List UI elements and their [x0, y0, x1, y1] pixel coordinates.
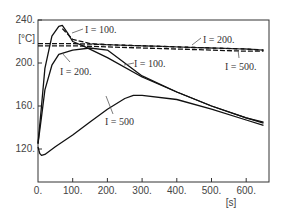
x-tick-400: 400. — [167, 185, 186, 196]
annotation-i500-right: I = 500. — [225, 61, 256, 72]
x-tick-100: 100. — [63, 185, 82, 196]
annotation-i500-low: I = 500 — [105, 116, 134, 127]
x-tick-600: 600. — [236, 185, 255, 196]
y-tick-120: 120. — [16, 143, 35, 154]
x-axis-unit: [s] — [226, 197, 237, 208]
annotation-i200-right: I = 200. — [203, 34, 234, 45]
x-tick-0: 0. — [34, 185, 42, 196]
y-axis-unit: [°C] — [18, 33, 35, 44]
annotation-i200-left: I = 200. — [60, 66, 91, 77]
y-tick-200: 200. — [16, 57, 35, 68]
x-tick-500: 500. — [202, 185, 221, 196]
y-tick-160: 160. — [16, 100, 35, 111]
y-tick-240: 240. — [16, 14, 35, 25]
x-tick-200: 200. — [98, 185, 117, 196]
annotation-i100-mid: I = 100. — [134, 58, 165, 69]
temperature-chart: 240. [°C] 200. 160. 120. 0. 100. 200. 30… — [0, 0, 286, 215]
x-tick-300: 300. — [132, 185, 151, 196]
annotation-i100-top: I = 100. — [85, 24, 116, 35]
series-line-2 — [38, 95, 264, 155]
